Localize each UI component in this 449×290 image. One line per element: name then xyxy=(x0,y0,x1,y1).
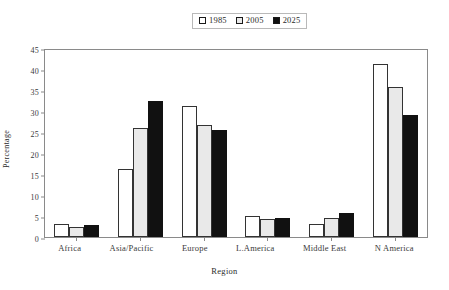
bar-middle-east-2005 xyxy=(324,218,339,237)
bar-asia-pacific-1985 xyxy=(118,169,133,237)
bar-n-america-2005 xyxy=(388,87,403,237)
bar-europe-2025 xyxy=(212,130,227,237)
bar-l-america-2025 xyxy=(275,218,290,237)
y-axis-tick-label: 40 xyxy=(5,67,39,76)
legend-entry-2025: 2025 xyxy=(273,16,301,25)
legend-label-1985: 1985 xyxy=(209,16,227,25)
light-gray-square-icon xyxy=(236,17,243,24)
chart-legend: 1985 2005 2025 xyxy=(192,13,307,29)
bar-group xyxy=(245,50,290,237)
bar-middle-east-2025 xyxy=(339,213,354,237)
y-axis-title: Percentage xyxy=(2,104,11,194)
y-axis-tick-label: 25 xyxy=(5,130,39,139)
bar-l-america-2005 xyxy=(260,219,275,237)
y-axis-tick-label: 45 xyxy=(5,46,39,55)
x-axis-tick-mark xyxy=(204,237,205,241)
plot-frame: 051015202530354045 xyxy=(44,49,428,238)
y-axis-tick-label: 5 xyxy=(5,214,39,223)
bar-group xyxy=(309,50,354,237)
bar-n-america-2025 xyxy=(403,115,418,237)
x-axis-tick-label: Africa xyxy=(58,243,81,253)
x-axis-tick-mark xyxy=(331,237,332,241)
y-axis-tick-label: 20 xyxy=(5,151,39,160)
x-axis-tick-mark xyxy=(76,237,77,241)
x-axis-tick-label: Asia/Pacific xyxy=(110,243,154,253)
x-axis-tick-label: Middle East xyxy=(303,243,347,253)
x-axis-tick-mark xyxy=(267,237,268,241)
plot-area: 051015202530354045 xyxy=(45,50,427,237)
legend-entry-1985: 1985 xyxy=(199,16,227,25)
bar-l-america-1985 xyxy=(245,216,260,237)
y-axis-tick-label: 10 xyxy=(5,193,39,202)
bar-group xyxy=(54,50,99,237)
bar-n-america-1985 xyxy=(373,64,388,237)
bar-europe-1985 xyxy=(182,106,197,237)
bar-middle-east-1985 xyxy=(309,224,324,237)
y-axis-tick-label: 0 xyxy=(5,235,39,244)
bar-group xyxy=(373,50,418,237)
x-axis-tick-labels: AfricaAsia/PacificEuropeL.AmericaMiddle … xyxy=(44,243,428,253)
x-axis-tick-label: L.America xyxy=(236,243,274,253)
bar-group xyxy=(118,50,163,237)
x-axis-title: Region xyxy=(0,266,449,276)
y-axis-tick-mark xyxy=(41,239,45,240)
filled-black-square-icon xyxy=(273,17,280,24)
bar-africa-2025 xyxy=(84,225,99,237)
bar-groups xyxy=(45,50,427,237)
legend-label-2025: 2025 xyxy=(283,16,301,25)
bar-asia-pacific-2005 xyxy=(133,128,148,237)
y-axis-tick-label: 30 xyxy=(5,109,39,118)
open-square-icon xyxy=(199,17,206,24)
x-axis-tick-mark xyxy=(140,237,141,241)
bar-africa-2005 xyxy=(69,227,84,237)
legend-label-2005: 2005 xyxy=(246,16,264,25)
bar-chart-figure: 1985 2005 2025 Percentage 05101520253035… xyxy=(0,0,449,290)
legend-entry-2005: 2005 xyxy=(236,16,264,25)
y-axis-tick-label: 15 xyxy=(5,172,39,181)
y-axis-tick-label: 35 xyxy=(5,88,39,97)
bar-europe-2005 xyxy=(197,125,212,237)
bar-group xyxy=(182,50,227,237)
bar-africa-1985 xyxy=(54,224,69,237)
x-axis-tick-label: N America xyxy=(375,243,414,253)
bar-asia-pacific-2025 xyxy=(148,101,163,238)
x-axis-tick-mark xyxy=(395,237,396,241)
x-axis-tick-label: Europe xyxy=(182,243,208,253)
